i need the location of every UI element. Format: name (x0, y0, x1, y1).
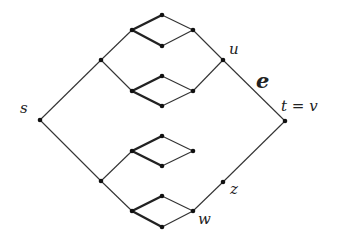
edge-d1l-d1b (132, 30, 162, 46)
edge-d1r-u (193, 30, 223, 60)
edge-d1l-d1t (132, 15, 162, 30)
edge-d2l-d2b (132, 91, 162, 106)
edge-d3l-d3b (132, 151, 162, 166)
node-u (221, 58, 226, 63)
edge-d2r-u (193, 60, 223, 91)
node-a (99, 58, 104, 63)
label-z: z (230, 182, 238, 197)
node-d2t (160, 74, 165, 79)
label-t-equals-v: t = v (281, 99, 318, 114)
edge-u-t (223, 60, 285, 121)
edge-a-d1l (101, 30, 132, 60)
edge-d3l-d3t (132, 136, 162, 151)
node-d3b (160, 164, 165, 169)
edge-s-b (40, 120, 101, 181)
node-d1l (130, 28, 135, 33)
edge-d2l-d2t (132, 76, 162, 91)
edge-b-d4l (101, 181, 132, 211)
edge-a-d2l (101, 60, 132, 91)
edge-b-d3l (101, 151, 132, 181)
node-z (221, 180, 226, 185)
edge-d4l-d4t (132, 196, 162, 211)
edge-d4t-w (162, 196, 193, 211)
node-d3l (130, 149, 135, 154)
node-s (38, 118, 43, 123)
edge-d1t-d1r (162, 15, 193, 30)
edge-w-z (193, 182, 223, 211)
nodes-group (38, 13, 288, 230)
edge-d3t-d3r (162, 136, 193, 151)
node-d1b (160, 44, 165, 49)
node-w (191, 209, 196, 214)
label-u: u (229, 42, 239, 57)
edge-d4b-w (162, 211, 193, 227)
label-edge-e: e (256, 70, 269, 91)
node-d3t (160, 134, 165, 139)
edge-d4l-d4b (132, 211, 162, 227)
label-w: w (198, 212, 211, 227)
node-d2l (130, 89, 135, 94)
edge-d2b-d2r (162, 91, 193, 106)
edge-z-t (223, 121, 285, 182)
node-d4b (160, 225, 165, 230)
node-d4t (160, 194, 165, 199)
edge-s-a (40, 60, 101, 120)
node-d1r (191, 28, 196, 33)
node-b (99, 179, 104, 184)
edge-d3b-d3r (162, 151, 193, 166)
edge-d2t-d2r (162, 76, 193, 91)
edge-d1b-d1r (162, 30, 193, 46)
graph-diagram (0, 0, 338, 241)
node-d3r (191, 149, 196, 154)
node-d4l (130, 209, 135, 214)
node-d2r (191, 89, 196, 94)
label-s: s (20, 101, 28, 116)
node-d1t (160, 13, 165, 18)
node-t (283, 119, 288, 124)
node-d2b (160, 104, 165, 109)
